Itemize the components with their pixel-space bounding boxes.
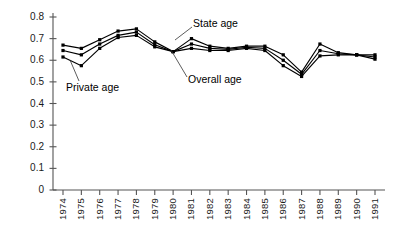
x-axis-tick-label: 1981 <box>186 198 196 220</box>
x-axis-tick-label: 1983 <box>223 198 233 220</box>
y-axis-tick-label: 0.2 <box>18 142 44 152</box>
data-series <box>61 27 376 78</box>
data-point-marker <box>153 45 156 48</box>
x-axis-tick-label: 1978 <box>131 198 141 220</box>
data-point-marker <box>135 31 138 34</box>
data-point-marker <box>98 42 101 45</box>
data-point-marker <box>227 49 230 52</box>
data-point-marker <box>61 49 64 52</box>
data-point-marker <box>245 47 248 50</box>
series-annotation-label: Overall age <box>188 73 242 85</box>
data-point-marker <box>373 58 376 61</box>
x-axis-tick-label: 1980 <box>168 198 178 220</box>
y-axis-tick-label: 0 <box>18 185 44 195</box>
x-axis-tick-label: 1990 <box>352 198 362 220</box>
data-point-marker <box>208 49 211 52</box>
annotation-leader-line <box>70 60 79 81</box>
x-axis-tick-label: 1979 <box>150 198 160 220</box>
line-chart: 00.10.20.30.40.50.60.70.8 19741975197619… <box>0 0 393 239</box>
y-axis-tick-label: 0.7 <box>18 34 44 44</box>
x-axis-tick-label: 1974 <box>58 198 68 220</box>
data-point-marker <box>190 37 193 40</box>
data-point-marker <box>135 34 138 37</box>
data-point-marker <box>98 47 101 50</box>
x-axis-tick-label: 1986 <box>278 198 288 220</box>
x-axis-tick-label: 1984 <box>242 198 252 220</box>
data-point-marker <box>355 53 358 56</box>
x-axis-tick-label: 1982 <box>205 198 215 220</box>
annotation-leader-line <box>171 50 187 77</box>
series-line-overall-age <box>63 32 375 74</box>
data-point-marker <box>80 64 83 67</box>
data-point-marker <box>116 36 119 39</box>
x-axis-tick-label: 1977 <box>113 198 123 220</box>
data-point-marker <box>61 44 64 47</box>
series-annotation-label: Private age <box>66 81 119 93</box>
data-point-marker <box>80 53 83 56</box>
data-point-marker <box>116 29 119 32</box>
data-point-marker <box>135 27 138 30</box>
x-axis-tick-label: 1975 <box>76 198 86 220</box>
data-point-marker <box>282 59 285 62</box>
y-axis-tick-label: 0.3 <box>18 120 44 130</box>
x-axis-tick-label: 1976 <box>95 198 105 220</box>
data-point-marker <box>98 38 101 41</box>
data-point-marker <box>153 40 156 43</box>
x-axis-tick-label: 1985 <box>260 198 270 220</box>
data-point-marker <box>190 42 193 45</box>
x-axis-tick-label: 1988 <box>315 198 325 220</box>
data-point-marker <box>318 42 321 45</box>
y-axis-tick-label: 0.1 <box>18 163 44 173</box>
y-axis-tick-label: 0.6 <box>18 55 44 65</box>
x-axis-tick-label: 1987 <box>297 198 307 220</box>
data-point-marker <box>282 53 285 56</box>
annotation-leader-line <box>175 27 192 40</box>
x-axis-tick-label: 1989 <box>333 198 343 220</box>
data-point-marker <box>190 47 193 50</box>
data-point-marker <box>337 53 340 56</box>
series-annotation-label: State age <box>193 17 238 29</box>
data-point-marker <box>263 49 266 52</box>
data-point-marker <box>318 54 321 57</box>
data-point-marker <box>282 64 285 67</box>
x-axis-tick-label: 1991 <box>370 198 380 220</box>
data-point-marker <box>318 49 321 52</box>
y-axis-tick-label: 0.8 <box>18 12 44 22</box>
annotation-leader-lines <box>70 27 192 81</box>
y-axis-tick-label: 0.5 <box>18 77 44 87</box>
data-point-marker <box>300 75 303 78</box>
y-axis-tick-label: 0.4 <box>18 99 44 109</box>
data-point-marker <box>61 55 64 58</box>
data-point-marker <box>80 47 83 50</box>
series-line-private-age <box>63 35 375 76</box>
